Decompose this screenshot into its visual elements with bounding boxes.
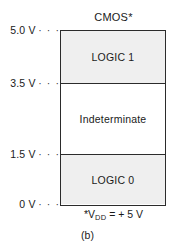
supply-voltage-footnote: *VDD = + 5 V [60,208,167,222]
axis-tick-5v-label: 5.0 V [10,24,36,36]
leader-dots-icon: · · · [38,198,60,210]
leader-dots-icon: · · · [38,148,60,160]
leader-dots-icon: · · · [38,77,60,89]
axis-tick-3-5v: 3.5 V · · · [6,77,60,90]
axis-tick-5v: 5.0 V · · · [6,24,60,37]
band-indeterminate-label: Indeterminate [80,113,147,125]
voltage-range-plot-box: LOGIC 1 Indeterminate LOGIC 0 [60,30,166,206]
chart-title: CMOS* [60,11,167,23]
cmos-logic-level-figure: CMOS* LOGIC 1 Indeterminate LOGIC 0 5.0 … [0,0,175,249]
band-logic-1: LOGIC 1 [61,31,165,84]
axis-tick-0v-label: 0 V [19,198,35,210]
figure-caption: (b) [0,229,175,241]
band-logic-1-label: LOGIC 1 [92,51,135,63]
band-indeterminate: Indeterminate [61,84,165,155]
footnote-subscript: DD [95,213,106,222]
axis-tick-3-5v-label: 3.5 V [10,77,36,89]
footnote-prefix: *V [84,208,95,220]
axis-tick-0v: 0 V · · · [6,197,60,210]
leader-dots-icon: · · · [38,24,60,36]
band-logic-0-label: LOGIC 0 [92,174,135,186]
axis-tick-1-5v: 1.5 V · · · [6,148,60,161]
band-logic-0: LOGIC 0 [61,155,165,204]
axis-tick-1-5v-label: 1.5 V [10,148,36,160]
footnote-suffix: = + 5 V [106,208,143,220]
